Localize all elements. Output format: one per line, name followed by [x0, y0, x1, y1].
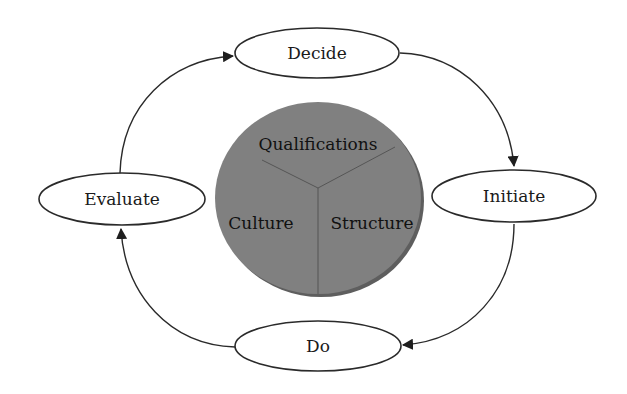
- node-label: Evaluate: [84, 189, 160, 209]
- node-evaluate: Evaluate: [39, 173, 205, 225]
- segment-culture: Culture: [228, 213, 293, 233]
- node-label: Decide: [287, 43, 347, 63]
- cycle-diagram: Qualifications Culture Structure Decide …: [0, 0, 627, 394]
- node-initiate: Initiate: [432, 170, 596, 222]
- edge-do-to-evaluate: [121, 229, 235, 347]
- node-decide: Decide: [235, 28, 399, 78]
- edge-initiate-to-do: [403, 224, 514, 345]
- center-circle: Qualifications Culture Structure: [215, 102, 424, 297]
- node-label: Initiate: [483, 186, 545, 206]
- edge-decide-to-initiate: [400, 53, 514, 166]
- node-label: Do: [306, 336, 330, 356]
- segment-structure: Structure: [330, 213, 413, 233]
- edge-evaluate-to-decide: [120, 56, 233, 173]
- segment-qualifications: Qualifications: [258, 134, 377, 154]
- node-do: Do: [235, 321, 401, 371]
